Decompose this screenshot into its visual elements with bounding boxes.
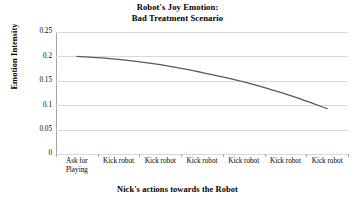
chart-title: Robot's Joy Emotion: Bad Treatment Scena…	[0, 2, 355, 24]
joy-emotion-line-series	[56, 32, 348, 154]
x-axis-tick-labels: Ask forPlayingKick robotKick robotKick r…	[56, 157, 348, 181]
y-axis-title: Emotion Intensity	[10, 2, 19, 112]
chart-title-line-1: Robot's Joy Emotion:	[137, 2, 219, 12]
x-axis-tick-label: Kick robot	[181, 157, 223, 181]
x-axis-tick-label: Kick robot	[139, 157, 181, 181]
y-axis-tick-label: 0.25	[26, 28, 52, 35]
x-axis-tick-label: Ask forPlaying	[56, 157, 98, 181]
x-axis-tick-label: Kick robot	[265, 157, 307, 181]
x-axis-tick-label: Kick robot	[306, 157, 348, 181]
x-axis-tick-mark	[348, 154, 349, 157]
y-axis-tick-label: 0.2	[26, 53, 52, 60]
y-axis-tick-labels: 00.050.10.150.20.25	[24, 32, 52, 154]
x-axis-title: Nick's actions towards the Robot	[0, 185, 355, 194]
y-axis-tick-label: 0.1	[26, 102, 52, 109]
chart-title-line-2: Bad Treatment Scenario	[0, 13, 355, 24]
y-axis-tick-label: 0.05	[26, 126, 52, 133]
chart-container: Robot's Joy Emotion: Bad Treatment Scena…	[0, 0, 355, 205]
y-axis-tick-label: 0	[26, 150, 52, 157]
y-axis-tick-label: 0.15	[26, 77, 52, 84]
gridline	[56, 154, 348, 155]
x-axis-tick-label: Kick robot	[223, 157, 265, 181]
series-path	[77, 56, 327, 108]
plot-area	[56, 32, 348, 154]
x-axis-tick-label: Kick robot	[98, 157, 140, 181]
